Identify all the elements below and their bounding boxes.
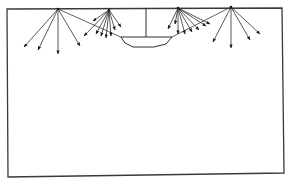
arrow-icon [58, 9, 80, 46]
ray-fan-d [213, 6, 260, 48]
arrow-icon [24, 9, 58, 47]
room-lighting-diagram [0, 0, 288, 179]
arrow-icon [168, 8, 178, 29]
ray-source-point [108, 9, 111, 12]
ray-source-point [230, 6, 233, 9]
ray-source-point [57, 8, 60, 11]
arrow-icon [109, 10, 121, 27]
reflection-lines [58, 7, 231, 38]
arrow-icon [38, 9, 58, 50]
diagram-canvas [0, 0, 288, 179]
arrow-icon [231, 7, 250, 40]
arrow-icon [213, 7, 231, 42]
arrow-icon [93, 10, 109, 21]
arrow-icon [231, 7, 260, 34]
lamp-bowl-icon [121, 37, 172, 47]
ray-fan-c [168, 7, 210, 34]
ray-source-point [177, 7, 180, 10]
